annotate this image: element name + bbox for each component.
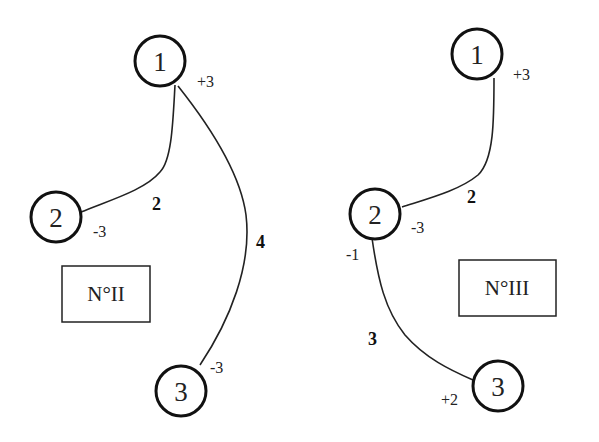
svg-text:N°III: N°III — [485, 276, 530, 300]
node-charge: -3 — [93, 223, 106, 240]
edge-2-3 — [372, 238, 473, 380]
node-1: 1 +3 — [452, 29, 530, 83]
diagram-n-ii: 1 +3 2 -3 3 -3 2 4 N°II — [31, 36, 265, 416]
node-2: 2 -3 -1 — [346, 189, 424, 263]
svg-text:3: 3 — [174, 377, 188, 407]
node-charge: -3 — [411, 219, 424, 236]
node-1: 1 +3 — [135, 36, 214, 90]
node-charge: -3 — [210, 359, 223, 376]
svg-text:1: 1 — [153, 47, 167, 77]
edge-1-3 — [178, 86, 247, 365]
edge-1-2 — [81, 85, 175, 212]
graph-diagrams: 1 +3 2 -3 3 -3 2 4 N°II 1 +3 — [0, 0, 599, 442]
node-3: 3 -3 — [156, 359, 223, 416]
diagram-n-iii: 1 +3 2 -3 -1 3 +2 2 3 N°III — [346, 29, 556, 411]
edge-1-2 — [402, 78, 494, 207]
node-3: 3 +2 — [441, 361, 523, 411]
node-2: 2 -3 — [31, 192, 106, 242]
node-charge: +3 — [513, 66, 530, 83]
svg-text:N°II: N°II — [87, 282, 125, 306]
edge-weight: 2 — [152, 194, 161, 214]
edge-weight: 2 — [467, 187, 476, 207]
diagram-title-box: N°III — [459, 260, 556, 316]
node-charge: +2 — [441, 391, 458, 408]
svg-text:2: 2 — [368, 200, 382, 230]
node-extra-charge: -1 — [346, 246, 359, 263]
svg-text:3: 3 — [491, 372, 505, 402]
edge-weight: 4 — [256, 232, 265, 252]
diagram-title-box: N°II — [62, 266, 150, 322]
svg-text:1: 1 — [470, 40, 484, 70]
svg-text:2: 2 — [49, 203, 63, 233]
node-charge: +3 — [197, 73, 214, 90]
edge-weight: 3 — [368, 329, 377, 349]
